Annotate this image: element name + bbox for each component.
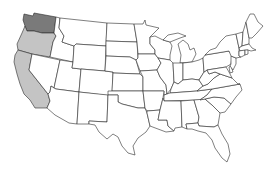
state-rhode-island[interactable]: [245, 50, 248, 55]
state-florida[interactable]: [186, 123, 230, 162]
state-washington[interactable]: [23, 13, 56, 33]
state-maine[interactable]: [246, 14, 263, 38]
state-kansas[interactable]: [112, 73, 143, 91]
state-arizona[interactable]: [47, 86, 79, 124]
state-north-dakota[interactable]: [106, 23, 137, 42]
state-new-mexico[interactable]: [77, 92, 108, 124]
us-map: [0, 0, 279, 175]
state-wyoming[interactable]: [72, 44, 106, 71]
state-montana[interactable]: [59, 18, 107, 46]
state-connecticut[interactable]: [239, 50, 245, 57]
